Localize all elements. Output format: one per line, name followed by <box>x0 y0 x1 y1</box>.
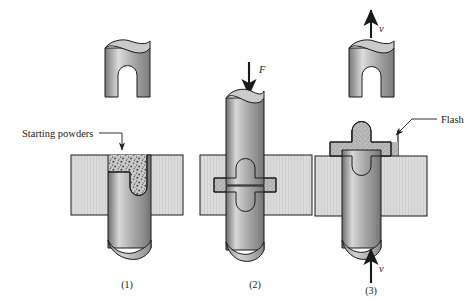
upper-punch-step2 <box>226 89 264 185</box>
lower-punch-step2 <box>226 186 264 261</box>
upper-velocity-label: v <box>379 23 384 34</box>
powder-forging-figure: Starting powders (1) F <box>0 0 476 298</box>
lower-punch-body-step3 <box>342 150 381 248</box>
step-caption-1: (1) <box>121 279 133 291</box>
step-caption-3: (3) <box>365 285 377 297</box>
callout-label-flash: Flash <box>441 114 465 125</box>
figure-canvas: Starting powders (1) F <box>0 0 476 298</box>
step-caption-2: (2) <box>249 279 261 291</box>
press-force-label: F <box>258 64 266 75</box>
eject-velocity-label: v <box>379 263 384 274</box>
callout-label-starting-powders: Starting powders <box>22 128 93 139</box>
lower-punch-step3 <box>342 150 381 259</box>
upper-punch-body-step2 <box>226 98 264 185</box>
lower-punch-body-step2 <box>226 186 264 250</box>
